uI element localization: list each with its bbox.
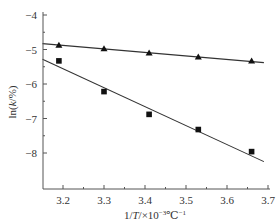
y-axis-title-prefix: ln( xyxy=(6,106,19,119)
triangle-marker xyxy=(248,57,255,63)
triangle-series xyxy=(43,42,264,64)
y-tick-label: −7 xyxy=(25,113,37,125)
tick-labels: −4−5−6−7−83.23.33.43.53.63.7 xyxy=(25,9,275,206)
x-tick-label: 3.3 xyxy=(97,194,111,206)
x-axis-title: 1/T/×10−3℃−1 xyxy=(124,209,187,221)
x-tick-label: 3.7 xyxy=(261,194,275,206)
x-tick-label: 3.2 xyxy=(56,194,70,206)
fit-line xyxy=(43,59,264,161)
y-tick-label: −5 xyxy=(25,44,37,56)
square-marker xyxy=(196,127,202,133)
fit-line xyxy=(43,44,264,63)
plot-area xyxy=(43,42,264,162)
x-tick-label: 3.5 xyxy=(179,194,193,206)
x-tick-label: 3.6 xyxy=(220,194,234,206)
x-axis-title-unit: ℃ xyxy=(166,209,178,221)
axes xyxy=(43,12,270,189)
y-tick-label: −6 xyxy=(25,78,37,90)
square-marker xyxy=(56,58,62,64)
y-axis-title-suffix: /%) xyxy=(6,85,19,101)
square-marker xyxy=(146,112,152,118)
x-axis-title-exp2: −1 xyxy=(179,209,187,217)
square-marker xyxy=(249,149,255,155)
y-tick-label: −4 xyxy=(25,9,37,21)
chart: −4−5−6−7−83.23.33.43.53.63.7 ln(k/%) 1/T… xyxy=(0,0,278,224)
square-series xyxy=(43,58,264,162)
x-tick-label: 3.4 xyxy=(138,194,152,206)
x-axis-title-mid: /×10 xyxy=(139,209,160,221)
y-axis-title: ln(k/%) xyxy=(6,85,19,118)
square-marker xyxy=(101,89,107,95)
y-tick-label: −8 xyxy=(25,147,37,159)
